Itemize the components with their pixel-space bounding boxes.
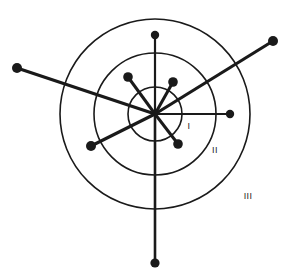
zone-label-1: I — [188, 121, 191, 131]
ray-south-endpoint-dot — [150, 258, 159, 267]
zone-label-2: II — [212, 145, 218, 155]
zone-label-3: III — [244, 191, 253, 201]
diagram-background — [0, 0, 289, 272]
ray-northeast-short-endpoint-dot — [168, 77, 178, 87]
radial-zone-diagram: IIIIII — [0, 0, 289, 272]
ray-north-endpoint-dot — [151, 31, 159, 39]
ray-northeast-long-endpoint-dot — [268, 36, 278, 46]
ray-northwest-short-endpoint-dot — [123, 72, 133, 82]
ray-northwest-long-endpoint-dot — [12, 63, 22, 73]
ray-southwest-medium-endpoint-dot — [86, 141, 96, 151]
ray-east-endpoint-dot — [226, 110, 234, 118]
diagram-canvas: IIIIII — [0, 0, 289, 272]
ray-southeast-short-endpoint-dot — [173, 139, 183, 149]
